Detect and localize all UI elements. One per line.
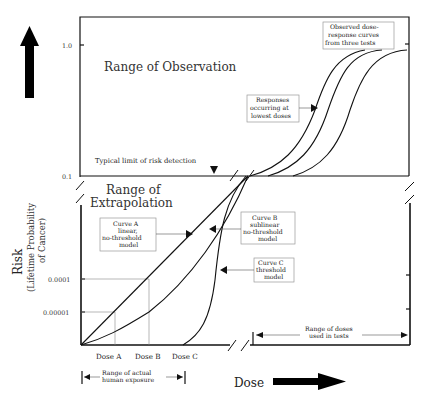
- y-tick-1-0: 1.0: [62, 42, 72, 50]
- curve-c-label-3: model: [264, 273, 283, 280]
- y-axis-label: Risk: [11, 248, 25, 275]
- lowest-doses-callout: Responses occurring at lowest doses: [247, 95, 318, 122]
- detection-arrow-icon: [210, 166, 218, 174]
- lowest-label-1: Responses: [256, 96, 289, 104]
- risk-up-arrow-icon: [20, 26, 39, 98]
- curve-a-label-3: no-threshold: [102, 234, 142, 241]
- y-axis-sublabel-2-group: of Cancer): [37, 218, 47, 263]
- human-range-label-2: human exposure: [102, 376, 154, 384]
- dose-a-label: Dose A: [96, 352, 122, 361]
- observed-curve-3: [293, 50, 407, 176]
- tests-range-left-arrow-icon: [256, 332, 263, 338]
- observed-label-2: response curves: [328, 31, 379, 39]
- curve-a-label-2: linear,: [118, 227, 138, 234]
- detection-limit-label: Typical limit of risk detection: [95, 157, 197, 165]
- curve-b-label-2: sublinear: [250, 221, 279, 228]
- y-tick-0-0001: 0.0001: [48, 276, 70, 284]
- human-exposure-range: Range of actual human exposure: [82, 369, 185, 384]
- dose-c-label: Dose C: [172, 352, 198, 361]
- y-axis-sublabel-1-group: (Lifetime Probability: [26, 203, 36, 292]
- dose-b-label: Dose B: [135, 352, 161, 361]
- human-range-left-arrow-icon: [84, 374, 90, 380]
- curve-c-arrow-icon: [220, 266, 227, 274]
- curve-c-callout: Curve C threshold model: [220, 258, 294, 282]
- test-dose-range: Range of doses used in tests: [253, 325, 408, 345]
- dose-right-arrow-icon: [273, 373, 346, 390]
- curve-a-label-4: model: [119, 241, 138, 248]
- curve-b-label-1: Curve B: [252, 214, 278, 221]
- lowest-label-3: lowest doses: [251, 112, 291, 119]
- range-of-extrapolation-label-2: Extrapolation: [90, 196, 173, 210]
- tests-range-label-2: used in tests: [309, 332, 349, 339]
- curve-b-label-3: no-threshold: [243, 228, 283, 235]
- range-of-observation-label: Range of Observation: [104, 60, 237, 74]
- curve-c-label-2: threshold: [256, 266, 286, 273]
- curve-b-label-4: model: [258, 235, 277, 242]
- lowest-label-2: occurring at: [250, 104, 289, 112]
- observed-label-3: from three tests: [325, 39, 376, 46]
- observed-curves-callout: Observed dose- response curves from thre…: [323, 22, 394, 49]
- y-tick-0-1: 0.1: [62, 173, 72, 181]
- curve-a-label-1: Curve A: [113, 220, 139, 227]
- y-axis-sublabel-1: (Lifetime Probability: [26, 203, 36, 292]
- curve-c-label-1: Curve C: [258, 259, 284, 266]
- curve-b-arrow-icon: [209, 225, 216, 233]
- tests-range-right-arrow-icon: [401, 332, 408, 338]
- y-axis-sublabel-2: of Cancer): [37, 218, 47, 263]
- y-axis-label-group: Risk: [11, 248, 25, 275]
- range-of-extrapolation-label-1: Range of: [106, 183, 162, 197]
- y-tick-0-00001: 0.00001: [43, 309, 69, 317]
- human-range-right-arrow-icon: [177, 374, 183, 380]
- dose-response-diagram: Risk (Lifetime Probability of Cancer) 1.…: [0, 0, 431, 403]
- curve-a-arrow-icon: [186, 230, 193, 238]
- x-axis-label: Dose: [234, 376, 264, 390]
- observed-label-1: Observed dose-: [330, 23, 379, 30]
